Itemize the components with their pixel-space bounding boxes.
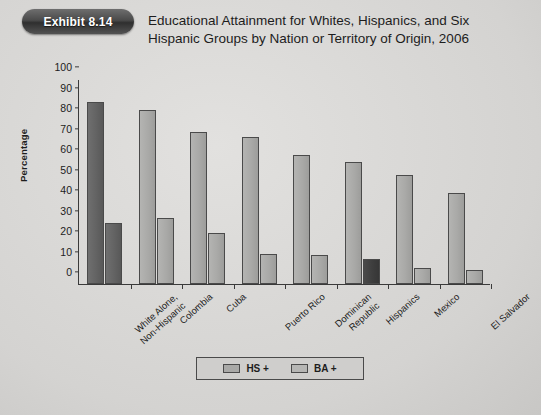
legend-label: BA + xyxy=(314,363,337,374)
exhibit-header: Exhibit 8.14 Educational Attainment for … xyxy=(0,0,541,72)
y-axis-tick: 70 xyxy=(60,123,79,135)
x-axis-label-line1: Puerto Rico xyxy=(282,291,327,333)
bar-ba xyxy=(311,255,328,284)
x-axis-label: El Salvador xyxy=(488,291,532,332)
bar-group xyxy=(285,80,337,284)
y-axis-tick: 0 xyxy=(66,266,79,278)
x-axis-tick xyxy=(440,284,441,289)
bar-ba xyxy=(157,218,174,284)
y-axis-tick: 50 xyxy=(60,164,79,176)
x-axis-tick xyxy=(234,284,235,289)
bar-hs xyxy=(242,137,259,284)
chart-title-line1: Educational Attainment for Whites, Hispa… xyxy=(148,13,469,28)
x-axis-label-line1: El Salvador xyxy=(488,291,532,332)
y-axis-tick: 90 xyxy=(60,82,79,94)
x-axis-tick xyxy=(491,284,492,289)
x-axis-label: Mexico xyxy=(432,291,462,320)
bar-ba xyxy=(260,254,277,284)
x-axis-tick xyxy=(388,284,389,289)
bar-ba xyxy=(414,268,431,284)
y-axis-tick: 60 xyxy=(60,143,79,155)
plot-area: 0102030405060708090100 xyxy=(78,80,490,285)
x-axis-label-line1: Cuba xyxy=(224,291,249,315)
bar-ba xyxy=(466,270,483,284)
bar-group xyxy=(182,80,234,284)
x-axis-tick xyxy=(337,284,338,289)
bar-hs xyxy=(345,162,362,284)
bar-group xyxy=(337,80,389,284)
y-axis-label: Percentage xyxy=(18,129,29,182)
x-axis-tick xyxy=(285,284,286,289)
chart-legend: HS +BA + xyxy=(196,357,364,380)
legend-item: BA + xyxy=(291,363,337,374)
y-axis-tick: 40 xyxy=(60,184,79,196)
bar-series-container xyxy=(79,80,490,284)
legend-swatch-hs xyxy=(223,364,240,373)
legend-swatch-ba xyxy=(291,364,308,373)
bar-ba xyxy=(363,259,380,284)
y-axis-tick: 30 xyxy=(60,205,79,217)
bar-group xyxy=(234,80,286,284)
bar-hs xyxy=(190,132,207,284)
x-axis-label: Cuba xyxy=(224,291,249,315)
x-axis-label-line1: Hispanics xyxy=(383,291,421,327)
bar-hs xyxy=(396,175,413,284)
exhibit-badge-label: Exhibit 8.14 xyxy=(43,15,112,29)
x-axis-tick xyxy=(182,284,183,289)
y-axis-tick: 10 xyxy=(60,246,79,258)
bar-group xyxy=(131,80,183,284)
chart-title: Educational Attainment for Whites, Hispa… xyxy=(148,12,518,48)
bar-hs xyxy=(139,110,156,284)
x-axis-label-line1: Mexico xyxy=(432,291,462,320)
legend-item: HS + xyxy=(223,363,269,374)
bar-hs xyxy=(87,102,104,284)
x-axis-label: Hispanics xyxy=(383,291,421,327)
legend-label: HS + xyxy=(246,363,269,374)
exhibit-badge: Exhibit 8.14 xyxy=(22,9,134,34)
page-background: Exhibit 8.14 Educational Attainment for … xyxy=(0,0,541,415)
bar-group xyxy=(388,80,440,284)
x-axis-tick xyxy=(131,284,132,289)
bar-group xyxy=(79,80,131,284)
x-axis-label: Puerto Rico xyxy=(282,291,327,333)
y-axis-tick: 80 xyxy=(60,102,79,114)
bar-group xyxy=(440,80,492,284)
bar-hs xyxy=(293,155,310,284)
x-axis-label: DominicanRepublic xyxy=(333,291,382,338)
chart-title-line2: Hispanic Groups by Nation or Territory o… xyxy=(148,30,518,48)
y-axis-tick: 20 xyxy=(60,225,79,237)
y-axis-tick: 100 xyxy=(54,61,79,73)
bar-hs xyxy=(448,193,465,284)
bar-ba xyxy=(105,223,122,285)
bar-ba xyxy=(208,233,225,284)
